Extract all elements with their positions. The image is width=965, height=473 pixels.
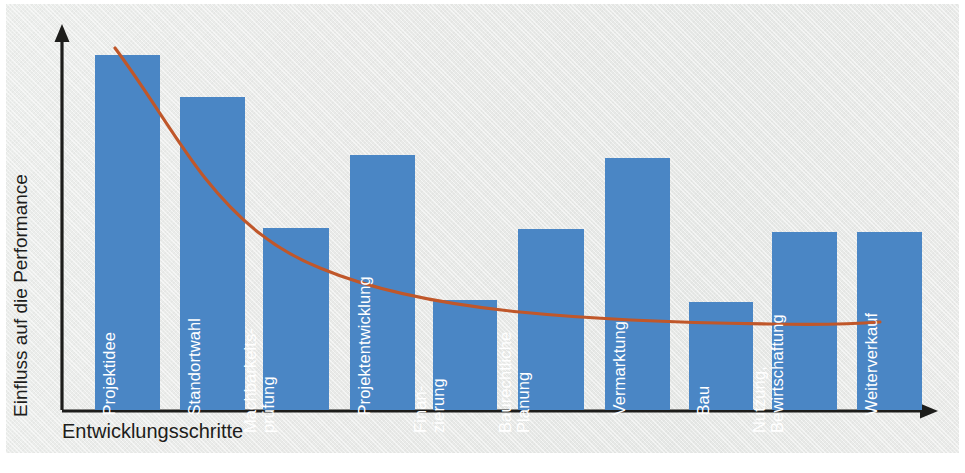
- bar-label: Machbarkeits- prüfung: [242, 328, 277, 433]
- bar-label: Finan- zierung: [412, 378, 447, 433]
- bar-label: Weiterverkauf: [863, 313, 881, 416]
- bar-label: Standortwahl: [186, 318, 204, 416]
- chart-figure: ProjektideeStandortwahlMachbarkeits- prü…: [0, 0, 965, 473]
- bar-label: Nutzung, Bewirtschaftung: [751, 314, 786, 433]
- bar-label: Vermarktung: [611, 321, 629, 416]
- x-axis-label: Entwicklungsschritte: [62, 420, 243, 443]
- bar-label: Baurechtliche Planung: [497, 332, 532, 433]
- bar-label: Projektidee: [101, 332, 119, 416]
- y-axis: [55, 24, 70, 410]
- chart-canvas: [0, 0, 965, 473]
- bar-label: Projektentwicklung: [356, 276, 374, 415]
- y-axis-label: Einfluss auf die Performance: [10, 174, 32, 417]
- bar-label: Bau: [695, 386, 713, 416]
